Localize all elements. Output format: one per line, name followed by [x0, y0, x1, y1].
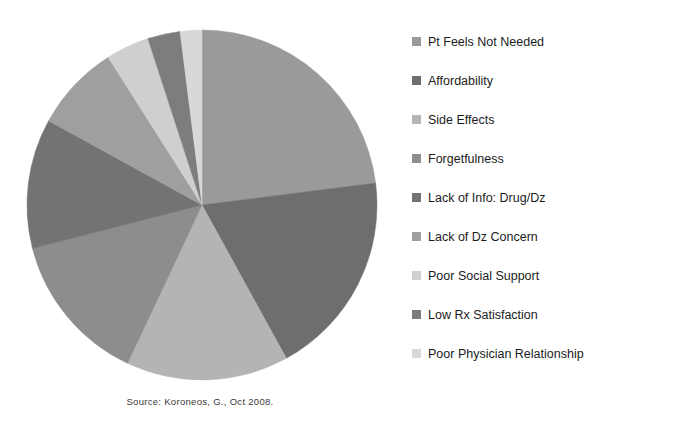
legend-swatch-icon	[412, 349, 421, 358]
legend-item-label: Poor Physician Relationship	[428, 347, 584, 361]
legend-item-lack-of-dz-concern[interactable]: Lack of Dz Concern	[412, 217, 670, 256]
source-caption: Source: Koroneos, G., Oct 2008.	[0, 396, 400, 407]
legend-swatch-icon	[412, 271, 421, 280]
legend: Pt Feels Not Needed Affordability Side E…	[412, 22, 670, 373]
legend-item-label: Affordability	[428, 74, 493, 88]
legend-item-affordability[interactable]: Affordability	[412, 61, 670, 100]
legend-swatch-icon	[412, 154, 421, 163]
legend-item-label: Side Effects	[428, 113, 494, 127]
pie-slice-group	[27, 30, 377, 380]
legend-swatch-icon	[412, 193, 421, 202]
legend-swatch-icon	[412, 37, 421, 46]
pie-chart-area: Source: Koroneos, G., Oct 2008.	[0, 0, 400, 441]
legend-item-side-effects[interactable]: Side Effects	[412, 100, 670, 139]
legend-swatch-icon	[412, 232, 421, 241]
legend-item-label: Forgetfulness	[428, 152, 504, 166]
legend-item-low-rx-satisfaction[interactable]: Low Rx Satisfaction	[412, 295, 670, 334]
legend-item-poor-physician-relationship[interactable]: Poor Physician Relationship	[412, 334, 670, 373]
pie-chart-svg	[0, 0, 400, 390]
legend-item-forgetfulness[interactable]: Forgetfulness	[412, 139, 670, 178]
legend-swatch-icon	[412, 115, 421, 124]
legend-swatch-icon	[412, 310, 421, 319]
legend-item-lack-of-info[interactable]: Lack of Info: Drug/Dz	[412, 178, 670, 217]
legend-item-label: Lack of Dz Concern	[428, 230, 538, 244]
legend-item-label: Poor Social Support	[428, 269, 539, 283]
legend-item-pt-feels-not-needed[interactable]: Pt Feels Not Needed	[412, 22, 670, 61]
legend-swatch-icon	[412, 76, 421, 85]
pie-chart-page: Source: Koroneos, G., Oct 2008. Pt Feels…	[0, 0, 673, 441]
legend-item-poor-social-support[interactable]: Poor Social Support	[412, 256, 670, 295]
pie-slice[interactable]	[202, 30, 376, 205]
legend-item-label: Pt Feels Not Needed	[428, 35, 544, 49]
legend-item-label: Low Rx Satisfaction	[428, 308, 538, 322]
legend-item-label: Lack of Info: Drug/Dz	[428, 191, 545, 205]
